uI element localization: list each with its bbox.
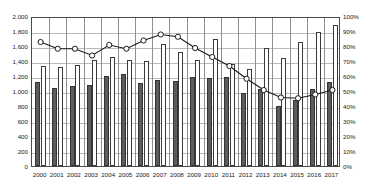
x-axis-tick: 2006 xyxy=(134,171,151,178)
x-axis-tick: 2000 xyxy=(31,171,48,178)
x-axis-tick: 2015 xyxy=(289,171,306,178)
y-axis-left-tick: 1,200 xyxy=(0,74,28,80)
y-axis-right-tick: 70% xyxy=(343,59,375,65)
x-axis-tick: 2012 xyxy=(237,171,254,178)
x-axis-tick: 2017 xyxy=(323,171,340,178)
y-axis-right-tick: 100% xyxy=(343,14,375,20)
line-marker xyxy=(295,96,300,101)
y-axis-left-tick: 1,600 xyxy=(0,44,28,50)
x-axis-tick: 2004 xyxy=(100,171,117,178)
x-axis-tick: 2013 xyxy=(254,171,271,178)
x-axis-tick: 2010 xyxy=(203,171,220,178)
y-axis-left-tick: 2,000 xyxy=(0,14,28,20)
line-marker xyxy=(261,87,266,92)
y-axis-left-tick: 1,400 xyxy=(0,59,28,65)
line-marker xyxy=(141,38,146,43)
y-axis-left-tick: 0 xyxy=(0,164,28,170)
y-axis-right-tick: 40% xyxy=(343,104,375,110)
line-marker xyxy=(158,32,163,37)
y-axis-right-tick: 30% xyxy=(343,119,375,125)
chart-container: 02004006008001,0001,2001,4001,6001,8002,… xyxy=(0,0,386,192)
y-axis-left-tick: 200 xyxy=(0,149,28,155)
line-marker xyxy=(175,34,180,39)
line-marker xyxy=(107,42,112,47)
x-axis-tick: 2002 xyxy=(65,171,82,178)
x-axis-tick: 2011 xyxy=(220,171,237,178)
x-axis-tick: 2009 xyxy=(186,171,203,178)
line-marker xyxy=(278,95,283,100)
line-marker xyxy=(313,92,318,97)
x-axis-tick: 2016 xyxy=(306,171,323,178)
line-marker xyxy=(38,39,43,44)
y-axis-right-tick: 10% xyxy=(343,149,375,155)
y-axis-left-tick: 1,000 xyxy=(0,89,28,95)
plot-area xyxy=(31,17,340,167)
line-marker xyxy=(227,63,232,68)
y-axis-right-tick: 80% xyxy=(343,44,375,50)
y-axis-left-tick: 800 xyxy=(0,104,28,110)
x-axis-tick: 2003 xyxy=(83,171,100,178)
line-marker xyxy=(330,87,335,92)
line-marker xyxy=(192,45,197,50)
line-marker xyxy=(89,53,94,58)
y-axis-right-tick: 50% xyxy=(343,89,375,95)
y-axis-right-tick: 0% xyxy=(343,164,375,170)
ratio-line-series xyxy=(32,18,341,168)
line-path xyxy=(41,35,333,99)
x-axis-tick: 2014 xyxy=(271,171,288,178)
line-marker xyxy=(210,54,215,59)
y-axis-left-tick: 600 xyxy=(0,119,28,125)
line-marker xyxy=(244,76,249,81)
line-marker xyxy=(72,46,77,51)
y-axis-right-tick: 20% xyxy=(343,134,375,140)
x-axis-tick: 2001 xyxy=(48,171,65,178)
y-axis-right-tick: 90% xyxy=(343,29,375,35)
x-axis-tick: 2005 xyxy=(117,171,134,178)
x-axis-tick: 2008 xyxy=(168,171,185,178)
y-axis-left-tick: 400 xyxy=(0,134,28,140)
y-axis-right-tick: 60% xyxy=(343,74,375,80)
x-axis-tick: 2007 xyxy=(151,171,168,178)
line-marker xyxy=(55,46,60,51)
line-marker xyxy=(124,46,129,51)
y-axis-left-tick: 1,800 xyxy=(0,29,28,35)
